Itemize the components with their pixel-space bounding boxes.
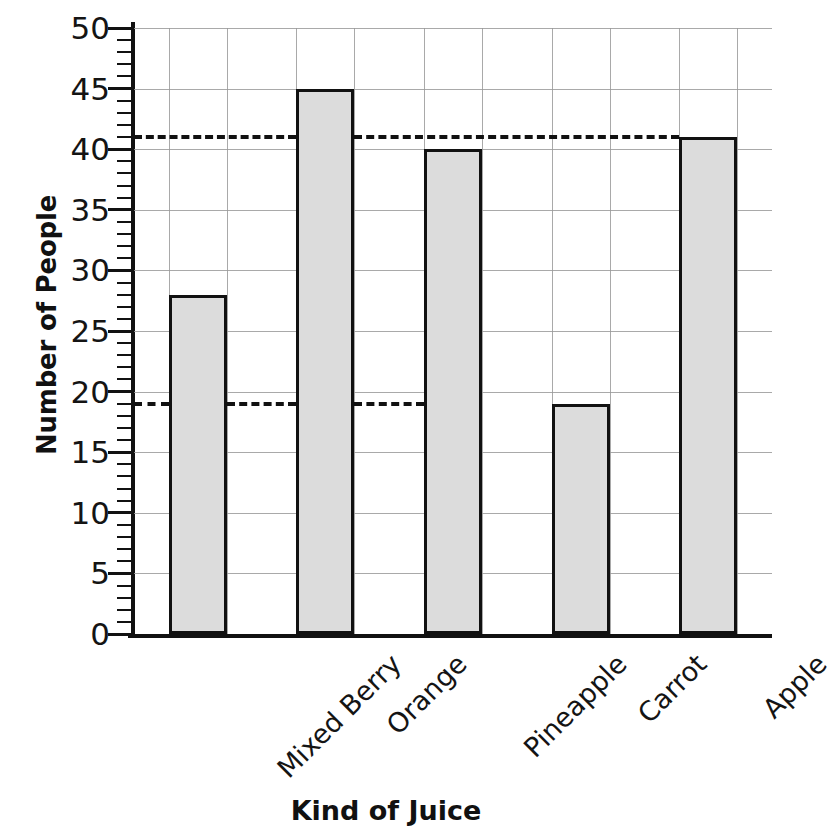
tick-minor-13 xyxy=(117,475,134,477)
tick-minor-47 xyxy=(117,63,134,65)
bar-apple xyxy=(679,137,737,634)
bar-orange xyxy=(296,89,354,634)
tick-minor-14 xyxy=(117,463,134,465)
reference-line-41-seg-0 xyxy=(134,135,296,139)
tick-major-20 xyxy=(108,390,134,393)
tick-minor-48 xyxy=(117,51,134,53)
tick-minor-38 xyxy=(117,172,134,174)
tick-major-45 xyxy=(108,87,134,90)
y-tick-label-20: 20 xyxy=(58,376,110,407)
y-tick-label-45: 45 xyxy=(58,73,110,104)
x-tick-label-apple: Apple xyxy=(757,648,831,724)
tick-minor-31 xyxy=(117,257,134,259)
tick-minor-1 xyxy=(117,621,134,623)
tick-minor-19 xyxy=(117,403,134,405)
reference-line-41-seg-1 xyxy=(354,135,679,139)
tick-minor-43 xyxy=(117,112,134,114)
tick-minor-21 xyxy=(117,378,134,380)
tick-minor-24 xyxy=(117,342,134,344)
tick-major-35 xyxy=(108,208,134,211)
tick-minor-12 xyxy=(117,488,134,490)
tick-minor-11 xyxy=(117,500,134,502)
bar-mixed-berry xyxy=(169,295,227,634)
tick-minor-2 xyxy=(117,609,134,611)
tick-minor-16 xyxy=(117,439,134,441)
plot-area xyxy=(134,28,772,634)
tick-minor-28 xyxy=(117,294,134,296)
tick-major-0 xyxy=(108,633,134,636)
tick-minor-42 xyxy=(117,124,134,126)
tick-major-30 xyxy=(108,269,134,272)
y-tick-label-0: 0 xyxy=(58,619,110,650)
gridline-h-45 xyxy=(134,89,772,90)
tick-minor-22 xyxy=(117,366,134,368)
tick-major-25 xyxy=(108,330,134,333)
tick-major-10 xyxy=(108,511,134,514)
reference-line-19-seg-0 xyxy=(134,402,169,406)
y-tick-label-25: 25 xyxy=(58,316,110,347)
tick-minor-29 xyxy=(117,282,134,284)
gridline-v-4-1 xyxy=(737,28,738,634)
bar-pineapple xyxy=(424,149,482,634)
tick-minor-6 xyxy=(117,560,134,562)
tick-minor-18 xyxy=(117,415,134,417)
tick-major-15 xyxy=(108,451,134,454)
x-axis-line xyxy=(128,634,772,638)
tick-major-50 xyxy=(108,27,134,30)
tick-minor-32 xyxy=(117,245,134,247)
tick-minor-26 xyxy=(117,318,134,320)
y-tick-label-5: 5 xyxy=(58,558,110,589)
tick-minor-36 xyxy=(117,197,134,199)
tick-minor-27 xyxy=(117,306,134,308)
tick-minor-4 xyxy=(117,585,134,587)
gridline-h-50 xyxy=(134,28,772,29)
gridline-v-2-1 xyxy=(482,28,483,634)
tick-minor-7 xyxy=(117,548,134,550)
tick-minor-49 xyxy=(117,39,134,41)
y-axis-tick-labels: 05101520253035404550 xyxy=(52,0,110,810)
y-tick-label-50: 50 xyxy=(58,13,110,44)
tick-minor-34 xyxy=(117,221,134,223)
y-tick-label-30: 30 xyxy=(58,255,110,286)
tick-minor-44 xyxy=(117,100,134,102)
y-tick-label-35: 35 xyxy=(58,194,110,225)
tick-major-40 xyxy=(108,148,134,151)
gridline-v-1-1 xyxy=(354,28,355,634)
reference-line-19-seg-1 xyxy=(227,402,297,406)
x-tick-label-carrot: Carrot xyxy=(631,648,712,729)
tick-minor-23 xyxy=(117,354,134,356)
tick-minor-39 xyxy=(117,160,134,162)
tick-minor-8 xyxy=(117,536,134,538)
bar-carrot xyxy=(552,404,610,634)
tick-minor-9 xyxy=(117,524,134,526)
tick-minor-46 xyxy=(117,75,134,77)
gridline-v-0-1 xyxy=(227,28,228,634)
x-axis-title: Kind of Juice xyxy=(0,795,772,826)
gridline-v-3-1 xyxy=(610,28,611,634)
tick-minor-17 xyxy=(117,427,134,429)
tick-minor-41 xyxy=(117,136,134,138)
tick-minor-37 xyxy=(117,185,134,187)
tick-major-5 xyxy=(108,572,134,575)
x-tick-label-pineapple: Pineapple xyxy=(518,648,633,763)
tick-minor-33 xyxy=(117,233,134,235)
y-tick-label-15: 15 xyxy=(58,437,110,468)
tick-minor-3 xyxy=(117,597,134,599)
y-tick-label-40: 40 xyxy=(58,134,110,165)
y-tick-label-10: 10 xyxy=(58,497,110,528)
reference-line-19-seg-2 xyxy=(354,402,424,406)
